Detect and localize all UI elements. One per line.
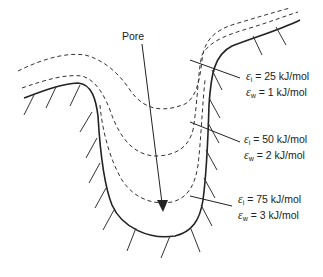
- annotation-75: εi = 75 kJ/mol εw = 3 kJ/mol: [238, 193, 301, 225]
- leader-50: [190, 122, 240, 142]
- eps-i-line: εi = 25 kJ/mol: [246, 70, 309, 86]
- pore-label: Pore: [122, 30, 144, 42]
- eps-i-line: εi = 50 kJ/mol: [244, 133, 307, 149]
- eps-w-line: εw = 3 kJ/mol: [238, 209, 301, 225]
- pore-arrowhead-icon: [157, 200, 168, 212]
- annotation-50: εi = 50 kJ/mol εw = 2 kJ/mol: [244, 133, 307, 165]
- annotation-25: εi = 25 kJ/mol εw = 1 kJ/mol: [246, 70, 309, 102]
- eps-i-line: εi = 75 kJ/mol: [238, 193, 301, 209]
- isoline-75: [100, 80, 205, 203]
- pore-arrow-shaft: [142, 44, 162, 203]
- eps-w-line: εw = 1 kJ/mol: [246, 86, 309, 102]
- leader-75: [190, 196, 232, 206]
- eps-w-line: εw = 2 kJ/mol: [244, 149, 307, 165]
